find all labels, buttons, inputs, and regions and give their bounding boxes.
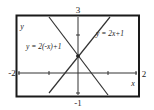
- graph: 3 -1 -2 2 x y y = 2x+1 y = 2(-x)+1: [0, 0, 154, 110]
- y-axis-label: y: [19, 22, 24, 31]
- x-min-label: -2: [8, 68, 16, 78]
- line2-label: y = 2(-x)+1: [25, 42, 62, 51]
- intersection-point: [76, 54, 80, 58]
- line1-label: y = 2x+1: [95, 29, 124, 38]
- y-max-label: 3: [76, 5, 81, 15]
- x-max-label: 2: [142, 69, 147, 79]
- y-min-label: -1: [74, 98, 82, 108]
- x-axis-label: x: [130, 79, 135, 88]
